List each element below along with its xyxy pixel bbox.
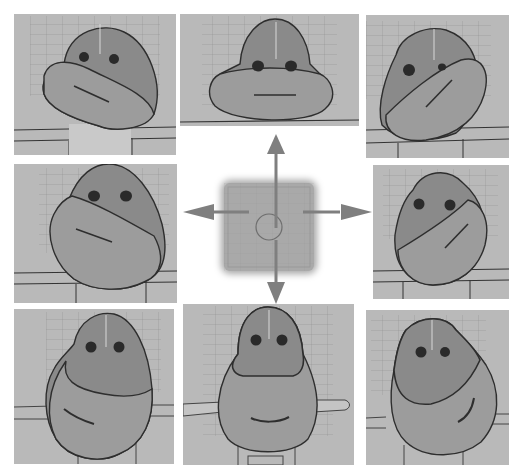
viewport-middle-left	[14, 164, 177, 303]
viewport-bottom-center	[183, 304, 354, 465]
viewport-bottom-left	[14, 309, 174, 464]
viewport-bottom-right	[366, 310, 509, 465]
viewport-top-right	[366, 15, 509, 158]
head-render-up-left	[14, 14, 176, 155]
viewport-top-left	[14, 14, 176, 155]
direction-control-pad[interactable]	[224, 183, 314, 271]
head-render-down	[183, 304, 354, 465]
head-render-right	[373, 165, 509, 299]
head-render-down-left	[14, 309, 174, 464]
head-render-up	[180, 14, 359, 126]
pad-grid	[224, 183, 314, 271]
head-render-up-right	[366, 15, 509, 158]
head-render-left	[14, 164, 177, 303]
viewport-top-center	[180, 14, 359, 126]
viewport-middle-right	[373, 165, 509, 299]
head-render-down-right	[366, 310, 509, 465]
